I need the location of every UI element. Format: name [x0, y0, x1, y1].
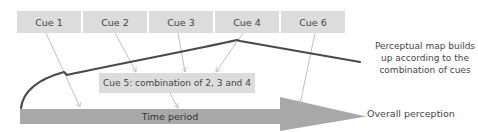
cue-3-box: Cue 3 [149, 11, 213, 33]
cue-5-combination-box: Cue 5: combination of 2, 3 and 4 [99, 73, 255, 93]
cue-6-box: Cue 6 [281, 11, 345, 33]
overall-perception-label: Overall perception [367, 108, 455, 119]
time-period-label: Time period [20, 109, 320, 124]
cue-5-label: Cue 5: combination of 2, 3 and 4 [103, 78, 251, 88]
annotation-line-3: combination of cues [372, 64, 478, 76]
cue-1-box: Cue 1 [17, 11, 81, 33]
cue-1-label: Cue 1 [35, 17, 63, 28]
cue-3-label: Cue 3 [167, 17, 195, 28]
annotation-line-1: Perceptual map builds [372, 40, 478, 52]
cue-4-box: Cue 4 [215, 11, 279, 33]
cue-2-label: Cue 2 [101, 17, 129, 28]
cue-4-label: Cue 4 [233, 17, 261, 28]
perceptual-map-annotation: Perceptual map builds up according to th… [372, 40, 478, 76]
cue-6-label: Cue 6 [299, 17, 327, 28]
cue-2-box: Cue 2 [83, 11, 147, 33]
annotation-line-2: up according to the [372, 52, 478, 64]
